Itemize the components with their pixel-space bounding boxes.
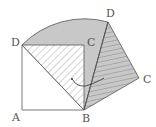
label-a: A bbox=[11, 111, 21, 124]
label-c-rotated: C bbox=[143, 73, 151, 86]
label-d-rotated: D bbox=[106, 7, 115, 20]
label-b: B bbox=[82, 112, 90, 125]
rotation-start-dot bbox=[71, 78, 73, 80]
label-d: D bbox=[11, 36, 20, 49]
rotation-diagram: D C A B D C bbox=[0, 0, 156, 127]
label-c: C bbox=[87, 36, 95, 49]
